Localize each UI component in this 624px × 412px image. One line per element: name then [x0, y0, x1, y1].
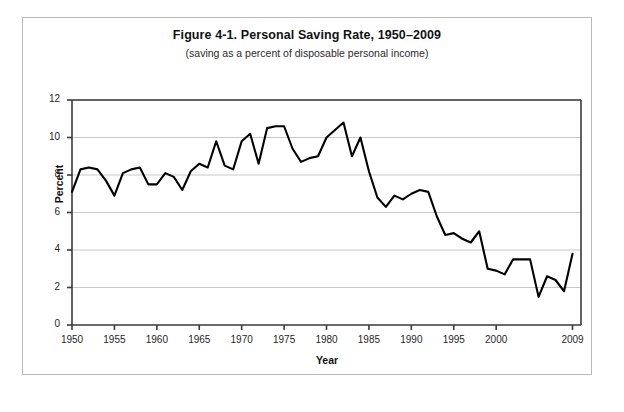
chart-plot-area: Percent Year 024681012 19501955196019651… [0, 0, 624, 412]
x-tick-label: 1960 [135, 334, 179, 345]
x-tick-label: 1980 [305, 334, 349, 345]
x-tick-label: 1990 [389, 334, 433, 345]
gridlines-group [72, 100, 581, 288]
y-tick-label: 2 [34, 281, 60, 292]
x-tick-label: 1950 [50, 334, 94, 345]
x-tick-label: 2009 [551, 334, 595, 345]
x-tick-label: 2000 [474, 334, 518, 345]
line-chart-svg [0, 0, 624, 412]
x-tick-label: 1985 [347, 334, 391, 345]
y-tick-label: 4 [34, 243, 60, 254]
y-tick-label: 8 [34, 168, 60, 179]
saving-rate-line [72, 123, 573, 297]
y-tick-label: 10 [34, 131, 60, 142]
x-tick-label: 1955 [92, 334, 136, 345]
y-tick-label: 12 [34, 93, 60, 104]
x-tick-label: 1965 [177, 334, 221, 345]
y-tick-label: 6 [34, 206, 60, 217]
figure-root: Figure 4-1. Personal Saving Rate, 1950–2… [0, 0, 624, 412]
x-tick-label: 1995 [432, 334, 476, 345]
x-tick-label: 1970 [220, 334, 264, 345]
y-tick-label: 0 [34, 318, 60, 329]
x-tick-label: 1975 [262, 334, 306, 345]
